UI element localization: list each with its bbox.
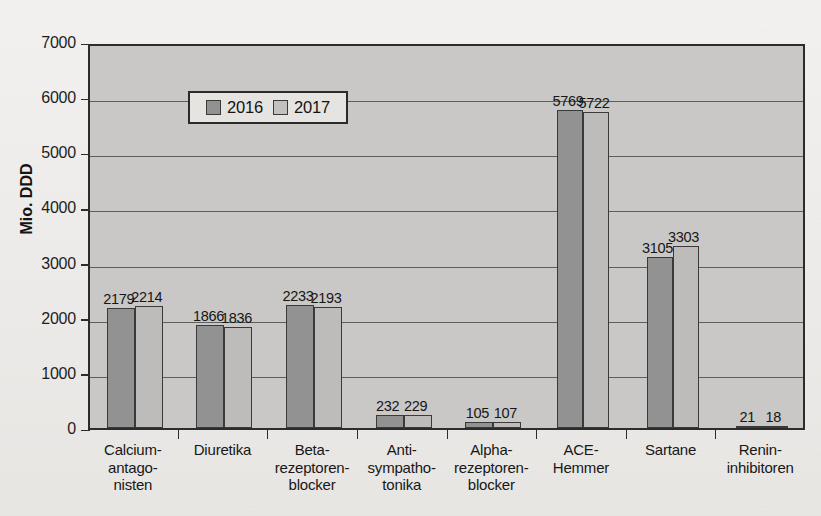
- x-tick-mark: [267, 430, 268, 439]
- legend-swatch-2016: [206, 100, 221, 115]
- x-tick-mark: [178, 430, 179, 439]
- bar-value-label: 2193: [311, 290, 342, 306]
- bar-value-label: 105: [466, 405, 489, 421]
- y-tick-label: 7000: [16, 34, 76, 52]
- x-category-label-line: inhibitoren: [715, 459, 805, 477]
- bar-2017-2: [314, 307, 342, 428]
- legend-item-2017: 2017: [273, 98, 330, 117]
- bar-chart: Mio. DDD 01000200030004000500060007000 2…: [0, 0, 821, 516]
- x-category-label-line: antago-: [88, 459, 178, 477]
- x-category-label-line: Alpha-: [447, 441, 537, 459]
- y-tick-label: 2000: [16, 310, 76, 328]
- y-tick-label: 3000: [16, 255, 76, 273]
- bar-2017-1: [224, 327, 252, 428]
- x-category-label-line: Anti-: [357, 441, 447, 459]
- x-category-label: Sartane: [626, 441, 716, 459]
- legend-swatch-2017: [273, 100, 288, 115]
- bar-value-label: 5722: [578, 95, 609, 111]
- bar-2016-4: [465, 422, 493, 428]
- x-category-label-line: Calcium-: [88, 441, 178, 459]
- bar-value-label: 2179: [103, 291, 134, 307]
- bar-2017-5: [583, 112, 609, 428]
- bar-value-label: 21: [739, 409, 755, 425]
- legend: 2016 2017: [188, 91, 348, 124]
- bar-value-label: 1866: [193, 308, 224, 324]
- bar-2016-0: [107, 308, 135, 428]
- y-tick-label: 6000: [16, 89, 76, 107]
- legend-label-2016: 2016: [227, 98, 263, 117]
- x-category-label-line: Diuretika: [178, 441, 268, 459]
- x-category-label-line: blocker: [447, 476, 537, 494]
- x-category-label-line: ACE-: [536, 441, 626, 459]
- gridline: [90, 211, 803, 212]
- x-category-label: ACE-Hemmer: [536, 441, 626, 476]
- bar-2016-6: [647, 257, 673, 428]
- x-category-label: Anti-sympatho-tonika: [357, 441, 447, 494]
- x-category-label-line: blocker: [267, 476, 357, 494]
- x-category-label: Diuretika: [178, 441, 268, 459]
- bar-2017-3: [404, 415, 432, 428]
- x-tick-mark: [626, 430, 627, 439]
- bar-2016-3: [376, 415, 404, 428]
- x-category-label-line: Beta-: [267, 441, 357, 459]
- x-category-label-line: rezeptoren-: [447, 459, 537, 477]
- bar-value-label: 107: [494, 405, 517, 421]
- bar-2016-2: [286, 305, 314, 428]
- y-tick-label: 4000: [16, 199, 76, 217]
- x-tick-mark: [447, 430, 448, 439]
- bar-value-label: 2214: [131, 289, 162, 305]
- x-category-label-line: tonika: [357, 476, 447, 494]
- x-tick-mark: [536, 430, 537, 439]
- x-category-label: Beta-rezeptoren-blocker: [267, 441, 357, 494]
- bar-2017-4: [493, 422, 521, 428]
- x-category-label-line: Renin-: [715, 441, 805, 459]
- bar-2016-1: [196, 325, 224, 428]
- x-tick-mark: [357, 430, 358, 439]
- x-tick-mark: [715, 430, 716, 439]
- y-tick-label: 0: [16, 420, 76, 438]
- y-tick-label: 5000: [16, 144, 76, 162]
- x-category-label-line: sympatho-: [357, 459, 447, 477]
- bar-value-label: 3303: [668, 229, 699, 245]
- bar-2017-0: [135, 306, 163, 428]
- legend-item-2016: 2016: [206, 98, 263, 117]
- x-category-label-line: rezeptoren-: [267, 459, 357, 477]
- bar-2016-5: [557, 110, 583, 428]
- bar-value-label: 229: [404, 398, 427, 414]
- bar-2016-7: [736, 426, 762, 428]
- x-category-label-line: Sartane: [626, 441, 716, 459]
- x-category-label: Calcium-antago-nisten: [88, 441, 178, 494]
- bar-2017-6: [673, 246, 699, 428]
- x-category-label: Renin-inhibitoren: [715, 441, 805, 476]
- bar-value-label: 18: [765, 409, 781, 425]
- bar-value-label: 1836: [221, 310, 252, 326]
- x-category-label: Alpha-rezeptoren-blocker: [447, 441, 537, 494]
- y-tick-label: 1000: [16, 365, 76, 383]
- x-category-label-line: Hemmer: [536, 459, 626, 477]
- bar-2017-7: [762, 426, 788, 428]
- gridline: [90, 156, 803, 157]
- legend-label-2017: 2017: [294, 98, 330, 117]
- bar-value-label: 2233: [283, 288, 314, 304]
- x-category-label-line: nisten: [88, 476, 178, 494]
- bar-value-label: 232: [376, 398, 399, 414]
